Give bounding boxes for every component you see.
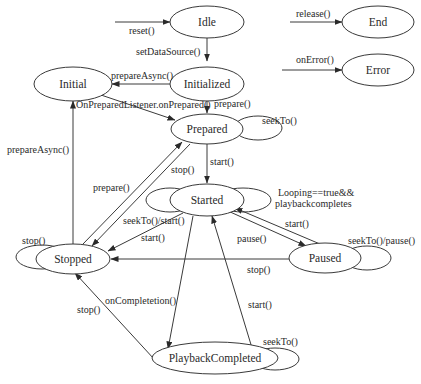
label-set-data-source: setDataSource() — [136, 46, 200, 58]
svg-text:Prepared: Prepared — [187, 123, 228, 136]
state-error: Error — [342, 54, 414, 86]
state-initialized: Initialized — [170, 67, 244, 101]
svg-text:Initialized: Initialized — [184, 78, 231, 90]
state-initial: Initial — [34, 67, 112, 101]
state-started: Started — [170, 184, 244, 216]
label-stop-prepared: stop() — [171, 164, 194, 176]
svg-text:PlaybackCompleted: PlaybackCompleted — [169, 352, 262, 365]
label-prepare-stopped: prepare() — [93, 182, 130, 194]
svg-text:Started: Started — [191, 194, 224, 206]
state-stopped: Stopped — [36, 244, 110, 274]
svg-text:Idle: Idle — [198, 16, 216, 28]
label-seek-pause: seekTo()/pause() — [348, 235, 415, 247]
edge-stopped-prepared — [83, 142, 182, 244]
svg-text:End: End — [369, 16, 388, 28]
label-stop-completed: stop() — [77, 304, 100, 316]
svg-text:Paused: Paused — [309, 252, 342, 264]
label-prepare-async-stopped: prepareAsync() — [7, 144, 69, 156]
label-seek-start: seekTo()/start() — [123, 215, 185, 227]
state-diagram: Idle Initialized Initial Prepared Starte… — [0, 0, 421, 384]
label-seekto-completed: seekTo() — [263, 336, 298, 348]
label-stop-self: stop() — [22, 235, 45, 247]
label-prepare-init: prepare() — [214, 98, 251, 110]
label-release: release() — [296, 8, 330, 20]
label-on-prepared: OnPreparedListener.onPrepared() — [76, 99, 211, 111]
label-start-paused: start() — [285, 218, 309, 230]
label-prepare-async-init: prepareAsync() — [111, 70, 173, 82]
state-paused: Paused — [289, 243, 361, 273]
label-start-started: start() — [141, 232, 165, 244]
label-reset: reset() — [129, 25, 155, 37]
state-end: End — [342, 6, 414, 38]
label-seekto-prepared: seekTo() — [262, 115, 297, 127]
label-on-error: onError() — [296, 54, 334, 66]
svg-text:Initial: Initial — [59, 78, 86, 90]
label-start-completed: start() — [248, 299, 272, 311]
state-idle: Idle — [170, 6, 244, 38]
label-looping-2: playbackcompletes — [275, 198, 352, 209]
state-prepared: Prepared — [171, 114, 243, 144]
label-start-prepared: start() — [210, 156, 234, 168]
label-looping-1: Looping==true&& — [278, 187, 354, 198]
label-on-completion: onCompletetion() — [105, 295, 176, 307]
svg-text:Stopped: Stopped — [54, 253, 92, 266]
svg-text:Error: Error — [366, 64, 390, 76]
edge-completed-stopped — [75, 273, 154, 359]
label-stop-paused: stop() — [247, 264, 270, 276]
state-playback-completed: PlaybackCompleted — [152, 342, 278, 374]
edge-started-completed — [168, 216, 193, 349]
label-pause: pause() — [237, 233, 266, 245]
